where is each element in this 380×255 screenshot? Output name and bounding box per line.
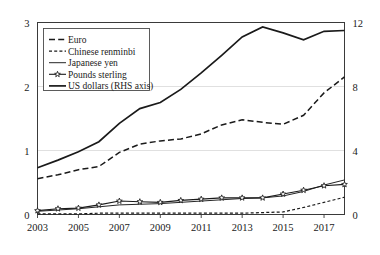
legend-label: Chinese renminbi	[68, 47, 136, 57]
chart-container: 0123 04812 20032005200720092011201320152…	[0, 0, 380, 255]
left-axis-tick-label: 2	[24, 82, 29, 93]
line-chart: 0123 04812 20032005200720092011201320152…	[0, 0, 380, 255]
legend-label: Japanese yen	[68, 58, 118, 68]
x-axis-tick-label: 2017	[314, 222, 335, 233]
left-axis-tick-label: 0	[24, 210, 29, 221]
x-axis-tick-label: 2003	[27, 222, 48, 233]
right-axis-tick-labels: 04812	[353, 18, 364, 221]
data-point-marker-pounds_sterling	[117, 198, 123, 203]
x-axis-tick-label: 2005	[68, 222, 89, 233]
legend-label: Euro	[68, 35, 87, 45]
x-axis-tick-label: 2007	[109, 222, 130, 233]
right-axis-tick-label: 4	[353, 146, 359, 157]
legend-label: Pounds sterling	[68, 70, 127, 80]
data-point-marker-pounds_sterling	[321, 183, 327, 188]
data-point-marker-pounds_sterling	[342, 181, 348, 186]
data-point-marker-pounds_sterling	[76, 205, 82, 210]
data-point-marker-pounds_sterling	[239, 195, 245, 200]
left-axis-tick-label: 3	[24, 18, 29, 29]
left-axis-tick-label: 1	[24, 146, 29, 157]
right-axis-tick-label: 8	[353, 82, 358, 93]
series-line-pounds_sterling	[38, 184, 345, 210]
legend-label: US dollars (RHS axis)	[68, 81, 153, 92]
x-axis-tick-marks	[38, 215, 325, 219]
x-axis-tick-label: 2009	[150, 222, 171, 233]
series-line-euro	[38, 77, 345, 179]
data-point-marker-pounds_sterling	[35, 208, 41, 213]
data-point-marker-pounds_sterling	[137, 199, 143, 204]
data-point-marker-pounds_sterling	[260, 195, 266, 200]
right-axis-tick-label: 0	[353, 210, 358, 221]
left-axis-tick-labels: 0123	[24, 18, 29, 221]
x-axis-tick-labels: 20032005200720092011201320152017	[27, 222, 335, 233]
x-axis-tick-label: 2013	[232, 222, 253, 233]
x-axis-tick-label: 2015	[273, 222, 294, 233]
right-axis-tick-label: 12	[353, 18, 364, 29]
legend: EuroChinese renminbiJapanese yenPounds s…	[44, 29, 154, 93]
x-axis-tick-label: 2011	[191, 222, 212, 233]
series-line-japanese_yen	[38, 180, 345, 211]
